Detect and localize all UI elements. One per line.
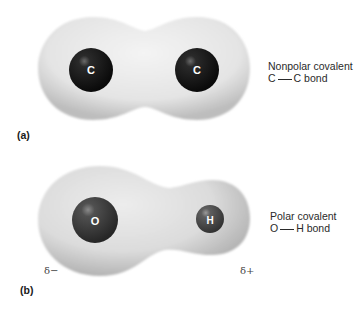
bond-type-label: Polar covalent (270, 210, 337, 222)
bond-formula-label: OH bond (270, 222, 337, 234)
panel-a: C C (38, 17, 250, 120)
bond-right-atom: C (294, 72, 302, 84)
partial-positive-charge: δ+ (240, 265, 254, 276)
carbon-atom-left: C (69, 48, 113, 92)
carbon-atom-right: C (175, 48, 219, 92)
atom-symbol: H (206, 215, 213, 226)
bond-description-a: Nonpolar covalent CC bond (268, 60, 353, 84)
panel-label-a: (a) (17, 129, 30, 141)
bond-right-atom: H (296, 222, 304, 234)
atom-symbol: C (193, 64, 201, 76)
bond-type-label: Nonpolar covalent (268, 60, 353, 72)
atom-symbol: C (87, 64, 95, 76)
bond-left-atom: C (268, 72, 276, 84)
bond-formula-label: CC bond (268, 72, 353, 84)
bond-line-icon (278, 79, 292, 80)
partial-negative-charge: δ− (44, 265, 58, 276)
panel-b: O H (38, 166, 250, 276)
bond-left-atom: O (270, 222, 278, 234)
bond-description-b: Polar covalent OH bond (270, 210, 337, 234)
covalent-bond-diagram: C C O H (0, 0, 362, 310)
oxygen-atom: O (72, 197, 118, 243)
atom-symbol: O (91, 215, 100, 227)
hydrogen-atom: H (196, 205, 224, 233)
panel-label-b: (b) (20, 284, 33, 296)
bond-suffix: bond (307, 222, 330, 234)
bond-suffix: bond (304, 72, 327, 84)
bond-line-icon (280, 229, 294, 230)
